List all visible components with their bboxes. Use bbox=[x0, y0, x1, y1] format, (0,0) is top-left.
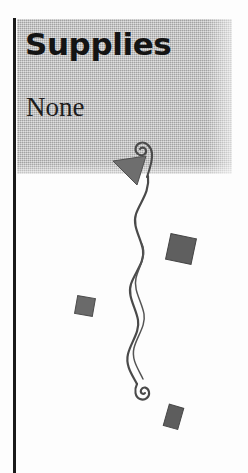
supplies-panel: Supplies None bbox=[17, 19, 232, 174]
bottom-spiral-icon bbox=[135, 384, 149, 400]
wavy-stem-icon bbox=[127, 176, 148, 384]
scanned-page: Supplies None bbox=[0, 0, 248, 473]
supplies-value: None bbox=[26, 92, 84, 122]
rect-bottom-icon bbox=[163, 404, 183, 429]
left-vertical-rule bbox=[13, 18, 16, 473]
square-small-icon bbox=[75, 296, 96, 317]
square-large-icon bbox=[166, 234, 197, 265]
page-title: Supplies bbox=[25, 26, 171, 62]
wavy-stem-inner-icon bbox=[133, 244, 144, 379]
